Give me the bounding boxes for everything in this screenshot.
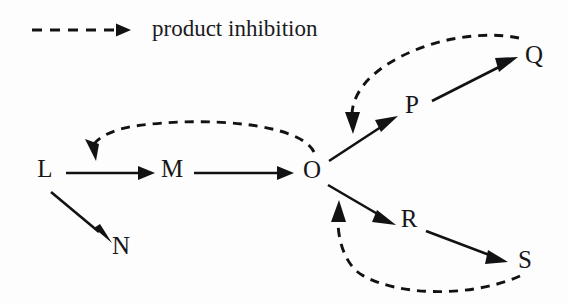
pathway-diagram: product inhibition bbox=[0, 0, 568, 304]
edge-M-O bbox=[194, 166, 294, 180]
edge-S-to-OR-inhibition bbox=[331, 200, 520, 292]
edge-L-N bbox=[51, 192, 112, 243]
edge-O-to-LM-inhibition bbox=[85, 122, 314, 161]
legend-label: product inhibition bbox=[152, 16, 318, 41]
node-labels: L M N O P Q R S bbox=[37, 41, 543, 273]
edge-L-M bbox=[66, 166, 155, 180]
pathway-canvas: product inhibition bbox=[0, 0, 568, 304]
dashed-arrowhead-icon bbox=[116, 24, 131, 37]
node-label-S: S bbox=[518, 246, 532, 273]
node-label-R: R bbox=[401, 205, 418, 232]
node-label-M: M bbox=[161, 155, 183, 182]
node-label-Q: Q bbox=[525, 41, 543, 68]
edge-Q-to-OP-inhibition bbox=[345, 35, 519, 134]
node-label-L: L bbox=[37, 155, 52, 182]
node-label-N: N bbox=[112, 232, 130, 259]
node-label-O: O bbox=[303, 156, 321, 183]
node-label-P: P bbox=[405, 91, 419, 118]
edge-O-P bbox=[329, 116, 398, 161]
edge-P-Q bbox=[432, 57, 518, 101]
edge-R-S bbox=[426, 231, 508, 264]
legend: product inhibition bbox=[32, 16, 318, 41]
